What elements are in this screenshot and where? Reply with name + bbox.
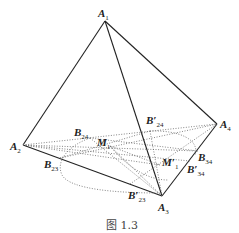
label-b23p: B′23 bbox=[127, 189, 146, 204]
point-labels: B24 B′24 M1 B23 M′1 B34 B′34 B′23 bbox=[43, 114, 213, 204]
tetrahedron-figure: A1 A2 A3 A4 B24 B′24 M1 B23 M′1 B34 B′34… bbox=[0, 0, 239, 233]
label-b23: B23 bbox=[43, 158, 59, 173]
label-a4: A4 bbox=[219, 118, 231, 133]
edge-a1-a2 bbox=[23, 21, 105, 145]
figure-caption: 图 1.3 bbox=[106, 219, 138, 232]
label-b24p: B′24 bbox=[145, 114, 164, 129]
label-a3: A3 bbox=[157, 201, 169, 216]
vertex-labels: A1 A2 A3 A4 bbox=[9, 7, 231, 216]
label-b24: B24 bbox=[73, 126, 89, 141]
label-b34p: B′34 bbox=[186, 163, 205, 178]
line-b23-a4 bbox=[60, 124, 217, 158]
label-m1p: M′1 bbox=[161, 156, 179, 171]
dotted-lines bbox=[23, 124, 217, 196]
label-a2: A2 bbox=[9, 140, 21, 155]
arc-b24p-b34 bbox=[150, 131, 196, 155]
edge-a2-a4 bbox=[23, 124, 217, 145]
label-a1: A1 bbox=[97, 7, 109, 22]
arc-m1-m1p bbox=[110, 146, 168, 180]
tetrahedron-diagram: A1 A2 A3 A4 B24 B′24 M1 B23 M′1 B34 B′34… bbox=[0, 0, 239, 233]
label-b34: B34 bbox=[197, 151, 213, 166]
